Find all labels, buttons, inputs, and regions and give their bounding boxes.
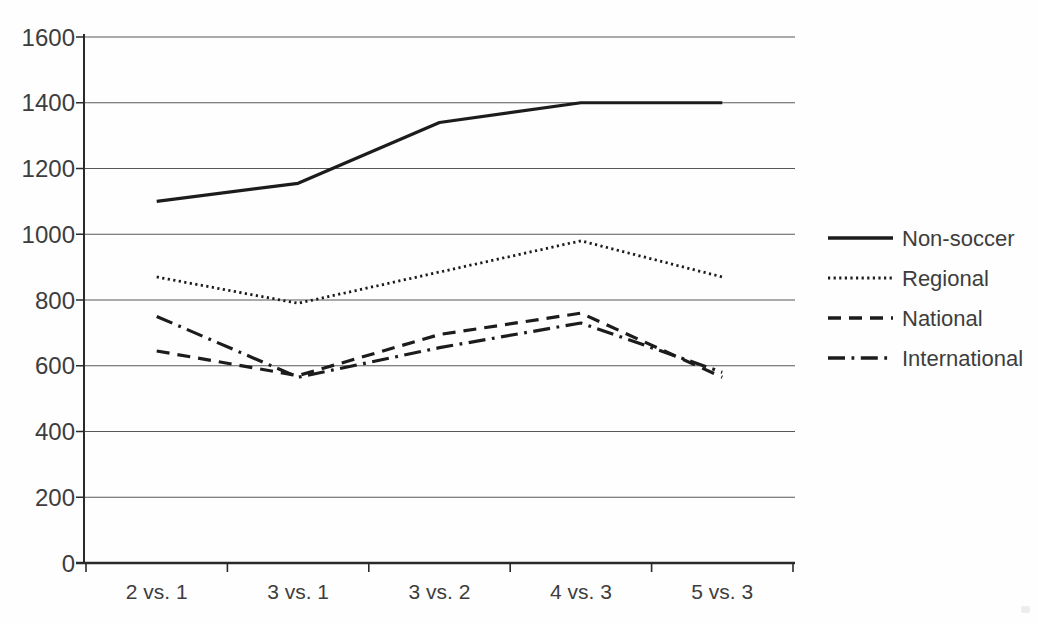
x-axis-label-2: 3 vs. 1 <box>267 580 329 603</box>
scan-smudge <box>1021 606 1030 613</box>
x-axis-label-1: 2 vs. 1 <box>126 580 188 603</box>
legend-label-regional: Regional <box>902 266 989 291</box>
x-axis-label-3: 3 vs. 2 <box>409 580 471 603</box>
legend-label-national: National <box>902 306 983 331</box>
y-axis-label-400: 400 <box>35 418 75 445</box>
series-line-non-soccer <box>157 103 723 202</box>
y-axis-label-1600: 1600 <box>22 24 75 51</box>
x-axis-label-4: 4 vs. 3 <box>550 580 612 603</box>
y-axis-label-1400: 1400 <box>22 89 75 116</box>
series-line-international <box>157 316 723 377</box>
y-axis-label-1000: 1000 <box>22 221 75 248</box>
series-line-regional <box>157 241 723 303</box>
legend-label-international: International <box>902 346 1023 371</box>
chart-figure: 020040060080010001200140016002 vs. 13 vs… <box>0 0 1038 624</box>
legend-label-non-soccer: Non-soccer <box>902 226 1014 251</box>
x-axis-label-5: 5 vs. 3 <box>691 580 753 603</box>
series-line-national <box>157 313 723 377</box>
line-chart: 020040060080010001200140016002 vs. 13 vs… <box>0 0 1038 624</box>
y-axis-label-0: 0 <box>62 550 75 577</box>
y-axis-label-1200: 1200 <box>22 155 75 182</box>
y-axis-label-800: 800 <box>35 287 75 314</box>
y-axis-label-200: 200 <box>35 484 75 511</box>
y-axis-label-600: 600 <box>35 352 75 379</box>
